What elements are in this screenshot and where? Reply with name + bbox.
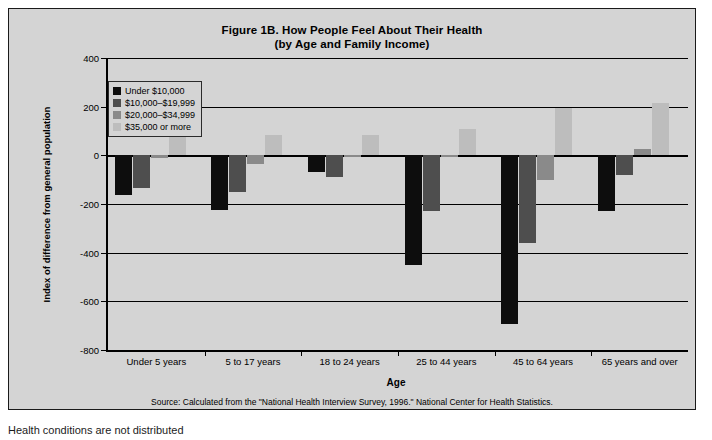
y-tick-label: 400	[83, 53, 99, 64]
legend-swatch	[113, 99, 121, 107]
x-axis-category-label: 45 to 64 years	[495, 356, 592, 367]
y-tick-400	[101, 58, 107, 59]
bar	[308, 155, 325, 172]
bar-group: 45 to 64 years	[495, 58, 592, 350]
y-tick--600	[101, 301, 107, 302]
bar	[115, 155, 132, 195]
bar	[405, 155, 422, 265]
y-tick-label: -200	[80, 199, 99, 210]
x-axis-category-label: Under 5 years	[108, 356, 205, 367]
legend-label: $20,000–$34,999	[125, 110, 195, 120]
bar	[133, 155, 150, 188]
chart-subtitle: (by Age and Family Income)	[9, 37, 695, 51]
bar	[362, 135, 379, 156]
bar	[229, 155, 246, 192]
legend-swatch	[113, 87, 121, 95]
bar	[652, 103, 669, 155]
chart-title-block: Figure 1B. How People Feel About Their H…	[9, 23, 695, 51]
x-axis-title: Age	[106, 377, 686, 388]
y-tick-label: 200	[83, 101, 99, 112]
legend-label: $10,000–$19,999	[125, 98, 195, 108]
bar	[616, 155, 633, 174]
y-axis-title: Index of difference from general populat…	[39, 58, 55, 350]
y-tick-label: -800	[80, 345, 99, 356]
bar	[247, 155, 264, 164]
body-text-below-figure: Health conditions are not distributed	[8, 424, 708, 440]
x-axis-category-label: 65 years and over	[591, 356, 688, 367]
bar	[423, 155, 440, 211]
bar	[519, 155, 536, 243]
bar-group: 18 to 24 years	[301, 58, 398, 350]
legend-label: Under $10,000	[125, 86, 185, 96]
bar	[151, 155, 168, 157]
legend-label: $35,000 or more	[125, 122, 191, 132]
y-tick-0	[101, 155, 107, 156]
x-axis-category-label: 5 to 17 years	[205, 356, 302, 367]
legend-swatch	[113, 111, 121, 119]
y-tick-label: -600	[80, 296, 99, 307]
bar	[211, 155, 228, 210]
legend-item: $10,000–$19,999	[113, 97, 195, 109]
y-axis-title-text: Index of difference from general populat…	[42, 106, 53, 302]
legend-item: $35,000 or more	[113, 121, 195, 133]
bar	[169, 135, 186, 156]
y-tick--200	[101, 204, 107, 205]
legend-item: $20,000–$34,999	[113, 109, 195, 121]
bar	[537, 155, 554, 179]
y-tick-label: 0	[94, 150, 99, 161]
bar-group: 65 years and over	[591, 58, 688, 350]
bar	[441, 155, 458, 156]
bar	[326, 155, 343, 177]
legend-item: Under $10,000	[113, 85, 195, 97]
bar	[555, 108, 572, 155]
y-tick--400	[101, 253, 107, 254]
y-tick-200	[101, 107, 107, 108]
bar	[598, 155, 615, 211]
chart-title: Figure 1B. How People Feel About Their H…	[9, 23, 695, 37]
y-tick-label: -400	[80, 247, 99, 258]
bar	[344, 155, 361, 156]
bar	[459, 129, 476, 156]
chart-legend: Under $10,000$10,000–$19,999$20,000–$34,…	[108, 81, 202, 137]
bar-group: 5 to 17 years	[205, 58, 302, 350]
bar	[265, 135, 282, 156]
x-axis-category-label: 18 to 24 years	[301, 356, 398, 367]
bar	[634, 149, 651, 155]
source-note: Source: Calculated from the "National He…	[9, 397, 695, 407]
bar	[501, 155, 518, 324]
y-tick--800	[101, 350, 107, 351]
figure-frame: Figure 1B. How People Feel About Their H…	[8, 8, 696, 410]
bar-group: 25 to 44 years	[398, 58, 495, 350]
legend-swatch	[113, 123, 121, 131]
x-axis-category-label: 25 to 44 years	[398, 356, 495, 367]
